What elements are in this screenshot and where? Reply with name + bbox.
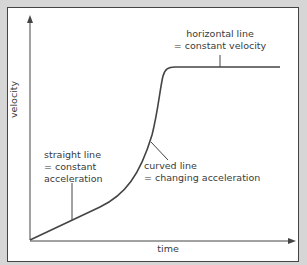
annotation-text: straight line — [44, 149, 103, 161]
x-axis-label: time — [148, 243, 188, 255]
annotation-text: = constant velocity — [170, 40, 270, 52]
annotation-text: = changing acceleration — [144, 172, 260, 184]
annotation-text: = constant — [44, 161, 103, 173]
annotation-horizontal-line: horizontal line = constant velocity — [170, 28, 270, 52]
curved-line-leader — [151, 142, 168, 160]
annotation-curved-line: curved line = changing acceleration — [144, 160, 260, 184]
annotation-straight-line: straight line = constant acceleration — [44, 149, 103, 185]
x-axis-arrow-icon — [288, 238, 296, 244]
annotation-text: horizontal line — [170, 28, 270, 40]
annotation-text: acceleration — [44, 173, 103, 185]
annotation-text: curved line — [144, 160, 260, 172]
y-axis-label: velocity — [8, 81, 19, 118]
y-axis-arrow-icon — [27, 15, 33, 23]
